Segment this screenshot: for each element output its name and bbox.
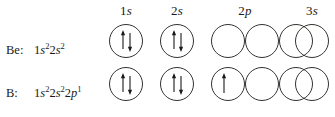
column-header-2s: 2s (156, 3, 198, 18)
electron-configuration-b: 1s22s22p1 (34, 85, 82, 101)
orbital-b-2p-2 (245, 67, 279, 101)
orbital-b-1s (109, 67, 143, 101)
header-2s-level: 2 (171, 3, 178, 18)
b-config-sup3: 1 (77, 84, 81, 94)
header-3s-orbital: s (313, 3, 318, 18)
header-2p-level: 2 (238, 3, 245, 18)
header-1s-level: 1 (120, 3, 127, 18)
orbital-be-2p-2 (245, 24, 279, 58)
header-3s-level: 3 (306, 3, 313, 18)
element-symbol-b: B: (6, 85, 32, 101)
orbital-be-2s (160, 24, 194, 58)
orbital-be-1s (109, 24, 143, 58)
row-label-be: Be: (6, 42, 32, 58)
electron-pair-arrows-icon (110, 68, 142, 100)
electron-pair-arrows-icon (110, 25, 142, 57)
be-config-sup2: 2 (61, 41, 65, 51)
orbital-b-2p-1 (211, 67, 245, 101)
orbital-be-3s (295, 24, 329, 58)
header-2s-orbital: s (178, 3, 183, 18)
orbital-be-2p-1 (211, 24, 245, 58)
row-label-b: B: (6, 85, 32, 101)
header-2p-orbital: p (245, 3, 252, 18)
element-symbol-be: Be: (6, 42, 32, 58)
electron-pair-arrows-icon (161, 68, 193, 100)
header-1s-orbital: s (127, 3, 132, 18)
column-header-3s: 3s (291, 3, 333, 18)
orbital-filling-diagram: 1s 2s 2p 3s Be: 1s22s2 (0, 0, 335, 117)
column-header-2p: 2p (207, 3, 283, 18)
single-electron-arrow-icon (212, 68, 244, 100)
orbital-b-2s (160, 67, 194, 101)
column-header-1s: 1s (105, 3, 147, 18)
electron-pair-arrows-icon (161, 25, 193, 57)
orbital-b-3s (295, 67, 329, 101)
electron-configuration-be: 1s22s2 (34, 42, 65, 58)
